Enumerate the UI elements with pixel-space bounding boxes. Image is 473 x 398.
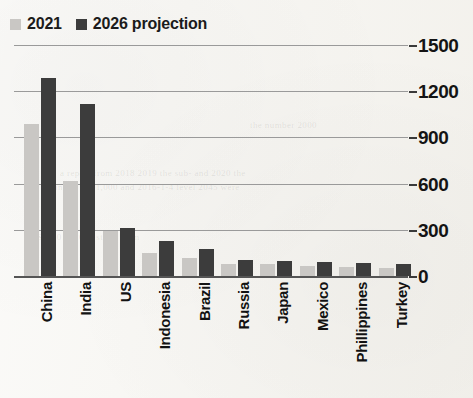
legend-swatch-icon-2021: [10, 19, 21, 30]
category-label-us: US: [117, 282, 134, 302]
category-label-japan: Japan: [274, 282, 291, 324]
bar-india-2026[interactable]: [80, 104, 95, 276]
bar-russia-2021[interactable]: [221, 264, 236, 276]
y-tick-dash-900: [409, 137, 417, 139]
category-label-china: China: [38, 282, 55, 322]
bar-india-2021[interactable]: [63, 181, 78, 276]
bar-group-japan: [260, 261, 292, 276]
legend-item-2026-projection[interactable]: 2026 projection: [76, 16, 207, 32]
bar-series-container: [14, 45, 408, 276]
bar-japan-2021[interactable]: [260, 264, 275, 276]
y-tick-label-1500: 1500: [418, 35, 458, 57]
chart-legend: 2021 2026 projection: [10, 16, 207, 32]
bar-brazil-2026[interactable]: [199, 249, 214, 276]
bar-group-brazil: [182, 249, 214, 276]
bar-japan-2026[interactable]: [277, 261, 292, 276]
bar-group-india: [63, 104, 95, 276]
category-label-russia: Russia: [235, 282, 252, 329]
legend-label-2026-projection: 2026 projection: [93, 16, 207, 32]
y-tick-label-900: 900: [418, 127, 448, 149]
bar-china-2026[interactable]: [41, 78, 56, 276]
bar-mexico-2021[interactable]: [300, 266, 315, 276]
bar-group-russia: [221, 260, 253, 276]
category-label-phillippines: Phillippines: [353, 282, 370, 363]
bar-indonesia-2021[interactable]: [142, 253, 157, 276]
legend-swatch-icon-2026: [76, 19, 87, 30]
bar-china-2021[interactable]: [24, 124, 39, 276]
category-label-indonesia: Indonesia: [156, 282, 173, 349]
legend-item-2021[interactable]: 2021: [10, 16, 62, 32]
legend-label-2021: 2021: [27, 16, 62, 32]
bar-group-indonesia: [142, 241, 174, 276]
bar-turkey-2021[interactable]: [379, 268, 394, 276]
category-label-mexico: Mexico: [314, 282, 331, 331]
bar-group-us: [103, 228, 135, 276]
bar-brazil-2021[interactable]: [182, 258, 197, 276]
category-label-turkey: Turkey: [393, 282, 410, 328]
category-label-brazil: Brazil: [196, 282, 213, 321]
y-tick-label-600: 600: [418, 174, 448, 196]
y-tick-dash-300: [409, 230, 417, 232]
y-tick-label-0: 0: [418, 266, 428, 288]
bar-group-turkey: [379, 264, 411, 276]
y-tick-dash-1200: [409, 91, 417, 93]
x-axis-category-labels: ChinaIndiaUSIndonesiaBrazilRussiaJapanMe…: [14, 282, 408, 392]
bar-mexico-2026[interactable]: [317, 262, 332, 276]
y-tick-dash-600: [409, 184, 417, 186]
y-tick-dash-0: [409, 276, 417, 278]
bar-phillippines-2026[interactable]: [356, 263, 371, 276]
bar-phillippines-2021[interactable]: [339, 267, 354, 276]
x-axis-baseline: [14, 276, 408, 278]
bar-group-phillippines: [339, 263, 371, 276]
bar-group-china: [24, 78, 56, 276]
bar-us-2026[interactable]: [120, 228, 135, 276]
category-label-india: India: [77, 282, 94, 316]
y-tick-dash-1500: [409, 45, 417, 47]
bar-group-mexico: [300, 262, 332, 276]
bar-chart: 2021 2026 projection 030060090012001500 …: [0, 0, 473, 398]
bar-turkey-2026[interactable]: [396, 264, 411, 276]
y-tick-label-1200: 1200: [418, 81, 458, 103]
y-tick-label-300: 300: [418, 220, 448, 242]
bar-russia-2026[interactable]: [238, 260, 253, 276]
plot-area: [14, 45, 408, 278]
bar-indonesia-2026[interactable]: [159, 241, 174, 276]
bar-us-2021[interactable]: [103, 231, 118, 276]
